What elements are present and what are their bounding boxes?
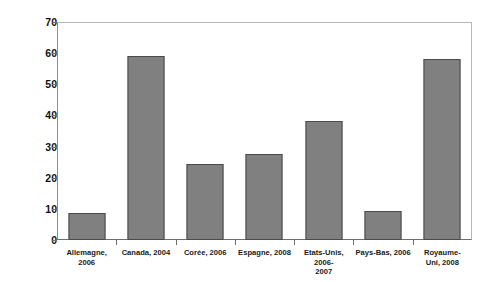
bar[interactable] [424,59,461,240]
x-axis-labels: Allemagne, 2006Canada, 2004Corée, 2006Es… [57,248,472,278]
bar[interactable] [365,211,402,240]
x-axis-category-label: Royaume-Uni, 2008 [413,248,472,267]
bar-slot [294,22,353,240]
x-tick-mark [116,240,117,245]
x-axis-category-label: Pays-Bas, 2006 [353,248,412,258]
y-axis: 706050403020100 [0,0,57,282]
bars-layer [57,22,472,240]
x-tick-mark [176,240,177,245]
y-tick-mark [52,240,57,241]
x-axis-category-label-line: Allemagne, 2006 [57,248,116,267]
bar[interactable] [127,56,164,240]
x-axis-category-label-line: 2007 [294,267,353,277]
bar-slot [413,22,472,240]
bar-chart: En % du produit des impôts directs 70605… [0,0,489,282]
x-axis-category-label-line: Pays-Bas, 2006 [353,248,412,258]
x-axis-category-label-line: Etats-Unis, 2006- [294,248,353,267]
bar-slot [353,22,412,240]
bar-slot [116,22,175,240]
bar-slot [57,22,116,240]
bar-slot [235,22,294,240]
bar[interactable] [187,164,224,240]
x-tick-mark [235,240,236,245]
x-tick-mark [413,240,414,245]
x-axis-category-label-line: Uni, 2008 [413,258,472,268]
bar[interactable] [246,154,283,240]
x-axis-category-label: Canada, 2004 [116,248,175,258]
x-axis-category-label-line: Royaume- [413,248,472,258]
x-axis-category-label: Espagne, 2008 [235,248,294,258]
x-axis-category-label-line: Corée, 2006 [176,248,235,258]
x-axis-category-label-line: Espagne, 2008 [235,248,294,258]
x-axis-category-label: Corée, 2006 [176,248,235,258]
bar[interactable] [305,121,342,240]
x-axis-category-label-line: Canada, 2004 [116,248,175,258]
bar[interactable] [68,213,105,240]
bar-slot [176,22,235,240]
x-axis-category-label: Etats-Unis, 2006-2007 [294,248,353,277]
x-tick-mark [353,240,354,245]
x-axis-category-label: Allemagne, 2006 [57,248,116,267]
x-tick-mark [294,240,295,245]
